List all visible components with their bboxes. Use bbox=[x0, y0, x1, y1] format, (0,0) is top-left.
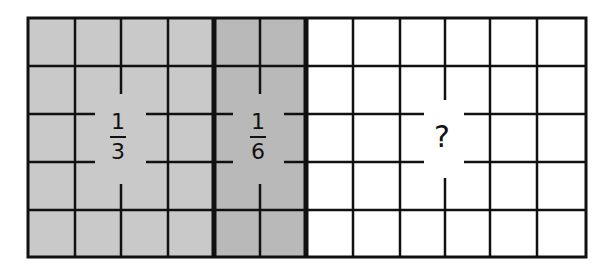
sixth-numerator: 1 bbox=[251, 110, 265, 134]
fraction-label-third: 1 3 bbox=[110, 110, 126, 164]
fraction-label-sixth: 1 6 bbox=[250, 110, 266, 164]
third-denominator: 3 bbox=[111, 140, 125, 164]
fraction-bar bbox=[250, 136, 266, 138]
third-numerator: 1 bbox=[111, 110, 125, 134]
fraction-bar bbox=[110, 136, 126, 138]
unknown-label: ? bbox=[434, 120, 450, 154]
fraction-grid-diagram bbox=[0, 0, 604, 274]
sixth-denominator: 6 bbox=[251, 140, 265, 164]
